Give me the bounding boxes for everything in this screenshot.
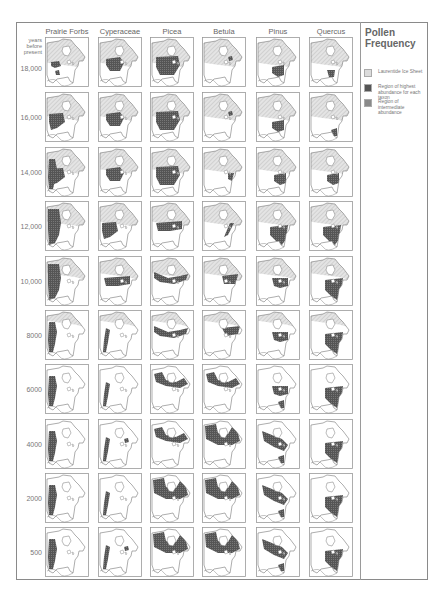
map-panel: [150, 527, 194, 577]
map-panel: [150, 37, 194, 87]
map-panel: [150, 473, 194, 523]
column-header: Prairie Forbs: [41, 27, 93, 36]
row-label: 2000: [16, 495, 42, 502]
map-panel: [256, 310, 300, 360]
row-label: 10,000: [16, 278, 42, 285]
map-panel: [150, 92, 194, 142]
map-panel: [98, 310, 142, 360]
map-panel: [150, 419, 194, 469]
map-panel: [309, 527, 353, 577]
map-panel: [45, 527, 89, 577]
legend-label: Laurentide Ice Sheet: [378, 69, 426, 75]
map-panel: [309, 364, 353, 414]
legend-item: Laurentide Ice Sheet: [364, 69, 426, 77]
map-panel: [45, 147, 89, 197]
map-panel: [309, 201, 353, 251]
map-panel: [45, 310, 89, 360]
map-panel: [256, 92, 300, 142]
map-panel: [202, 201, 246, 251]
map-panel: [98, 473, 142, 523]
column-header: Betula: [198, 27, 250, 36]
row-label: 12,000: [16, 223, 42, 230]
map-panel: [98, 419, 142, 469]
legend-item: Region of intermediate abundance: [364, 99, 426, 116]
map-panel: [150, 310, 194, 360]
map-panel: [45, 419, 89, 469]
map-panel: [202, 419, 246, 469]
map-panel: [202, 310, 246, 360]
map-panel: [256, 256, 300, 306]
map-panel: [256, 37, 300, 87]
map-panel: [202, 527, 246, 577]
yaxis-title: years before present: [18, 37, 42, 55]
map-panel: [256, 527, 300, 577]
row-label: 8000: [16, 332, 42, 339]
map-panel: [202, 147, 246, 197]
map-panel: [98, 256, 142, 306]
map-panel: [309, 473, 353, 523]
legend-label: Region of intermediate abundance: [378, 99, 426, 116]
map-panel: [202, 473, 246, 523]
legend-swatch-intermediate: [364, 99, 372, 107]
map-panel: [45, 256, 89, 306]
row-label: 18,000: [16, 65, 42, 72]
legend-title-line1: Pollen: [365, 27, 416, 38]
map-panel: [309, 256, 353, 306]
map-panel: [45, 473, 89, 523]
map-panel: [309, 37, 353, 87]
column-header: Cyperaceae: [94, 27, 146, 36]
legend-title-line2: Frequency: [365, 38, 416, 49]
map-panel: [309, 147, 353, 197]
row-label: 6000: [16, 386, 42, 393]
legend-title: Pollen Frequency: [365, 27, 416, 49]
row-label: 4000: [16, 441, 42, 448]
map-panel: [45, 92, 89, 142]
map-panel: [150, 364, 194, 414]
map-panel: [98, 147, 142, 197]
row-label: 16,000: [16, 114, 42, 121]
map-panel: [256, 364, 300, 414]
map-panel: [45, 37, 89, 87]
legend-swatch-high: [364, 84, 372, 92]
map-panel: [45, 364, 89, 414]
map-panel: [45, 201, 89, 251]
map-panel: [98, 364, 142, 414]
map-panel: [98, 527, 142, 577]
row-label: 500: [16, 549, 42, 556]
legend-swatch-ice: [364, 69, 372, 77]
map-panel: [202, 364, 246, 414]
map-panel: [256, 419, 300, 469]
map-panel: [150, 201, 194, 251]
legend-divider: [360, 22, 361, 580]
map-panel: [256, 473, 300, 523]
map-panel: [150, 147, 194, 197]
map-panel: [202, 92, 246, 142]
map-panel: [150, 256, 194, 306]
map-panel: [202, 37, 246, 87]
map-panel: [309, 92, 353, 142]
map-panel: [98, 92, 142, 142]
map-panel: [309, 419, 353, 469]
column-header: Picea: [146, 27, 198, 36]
column-header: Quercus: [305, 27, 357, 36]
map-panel: [256, 201, 300, 251]
map-panel: [256, 147, 300, 197]
map-panel: [98, 37, 142, 87]
map-panel: [309, 310, 353, 360]
map-panel: [98, 201, 142, 251]
map-panel: [202, 256, 246, 306]
row-label: 14,000: [16, 169, 42, 176]
column-header: Pinus: [252, 27, 304, 36]
